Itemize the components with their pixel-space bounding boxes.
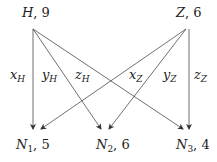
edge-label-zh-sub: H: [82, 74, 90, 84]
edge-label-zz: zZ: [194, 68, 207, 84]
node-h: H, 9: [22, 6, 50, 19]
node-h-value: 9: [42, 5, 50, 20]
edge-label-xh-sub: H: [17, 74, 25, 84]
node-n1-value: 5: [41, 137, 49, 152]
node-n2-name: N: [96, 137, 107, 152]
node-z: Z, 6: [176, 6, 202, 19]
node-n3-name: N: [176, 137, 187, 152]
edge-label-yz: yZ: [163, 68, 177, 84]
edge-label-zz-sub: Z: [201, 74, 207, 84]
node-n2: N2, 6: [96, 138, 130, 154]
edge-label-yh-sub: H: [49, 74, 57, 84]
edge-label-xz: xZ: [129, 68, 143, 84]
edge-label-xh: xH: [10, 68, 25, 84]
node-n1-name: N: [16, 137, 27, 152]
node-n3: N3, 4: [176, 138, 210, 154]
edge-label-yh: yH: [42, 68, 57, 84]
edge-label-zh-var: z: [75, 67, 82, 82]
node-n3-value: 4: [201, 137, 209, 152]
edge-label-yz-sub: Z: [170, 74, 176, 84]
node-h-name: H: [22, 5, 33, 20]
node-z-value: 6: [193, 5, 201, 20]
edge-label-zz-var: z: [194, 67, 201, 82]
node-n1: N1, 5: [16, 138, 50, 154]
node-n2-value: 6: [121, 137, 129, 152]
node-z-name: Z: [176, 5, 185, 20]
edge-label-zh: zH: [75, 68, 90, 84]
edge-label-xz-sub: Z: [136, 74, 142, 84]
